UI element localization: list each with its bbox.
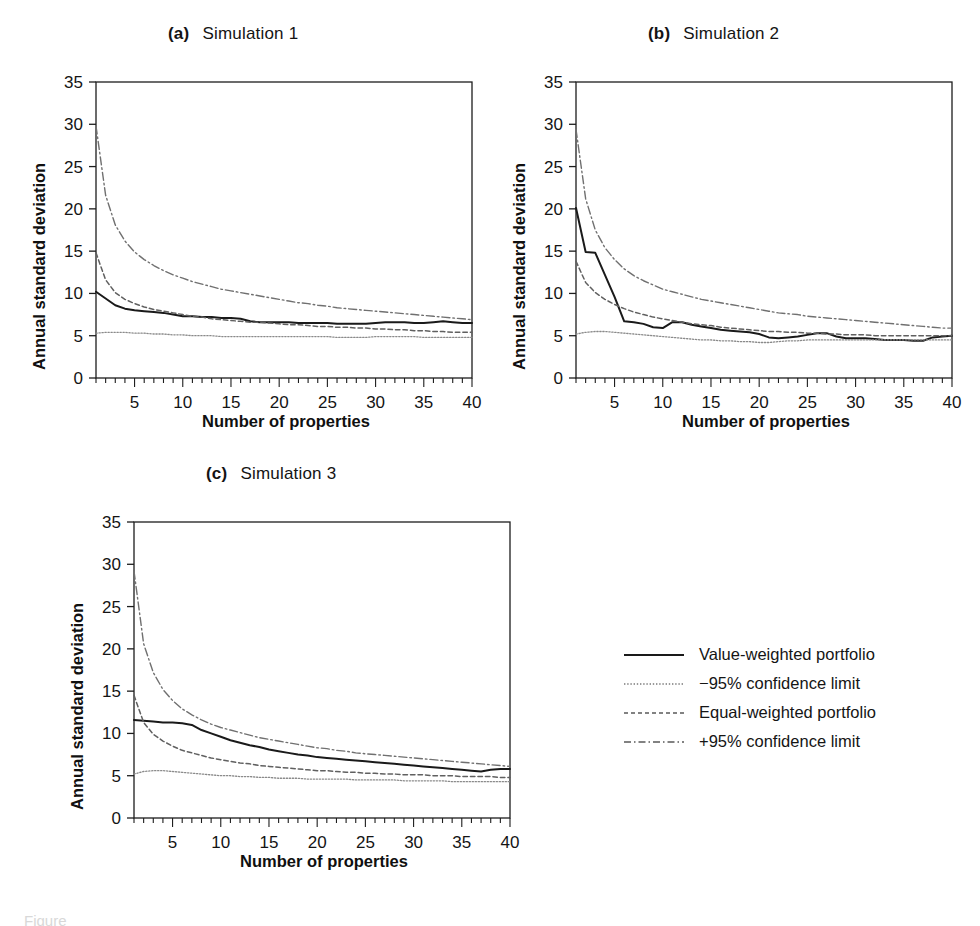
y-tick-label-5: 25 (64, 158, 83, 177)
y-tick-label-0: 0 (112, 809, 121, 828)
y-tick-label-3: 15 (102, 682, 121, 701)
x-tick-label-5: 30 (404, 833, 423, 852)
x-axis-title-b: Number of properties (576, 412, 956, 431)
x-tick-label-1: 10 (653, 393, 672, 412)
series-line-2 (134, 695, 510, 777)
series-line-3 (576, 129, 952, 328)
x-tick-label-0: 5 (168, 833, 177, 852)
y-tick-label-1: 5 (554, 327, 563, 346)
x-tick-label-4: 25 (318, 393, 337, 412)
y-tick-label-1: 5 (112, 767, 121, 786)
legend-label-1: −95% confidence limit (699, 674, 860, 693)
y-tick-label-4: 20 (102, 640, 121, 659)
y-tick-label-6: 30 (544, 115, 563, 134)
x-tick-label-2: 15 (222, 393, 241, 412)
x-tick-label-4: 25 (798, 393, 817, 412)
series-line-2 (576, 261, 952, 335)
y-tick-label-5: 25 (544, 158, 563, 177)
x-tick-label-1: 10 (211, 833, 230, 852)
legend-key-dashed-icon (622, 706, 686, 720)
x-tick-label-7: 40 (501, 833, 520, 852)
x-tick-label-3: 20 (750, 393, 769, 412)
y-tick-label-4: 20 (544, 200, 563, 219)
legend-item-upper-confidence: +95% confidence limit (622, 727, 876, 756)
x-tick-label-6: 35 (452, 833, 471, 852)
series-line-1 (134, 771, 510, 782)
x-tick-label-5: 30 (366, 393, 385, 412)
y-tick-label-3: 15 (544, 242, 563, 261)
legend-key-dotted-icon (622, 677, 686, 691)
x-axis-title-c: Number of properties (134, 852, 514, 871)
legend-key-dashdot-icon (622, 735, 686, 749)
figure-root: (a)Simulation 1 Annual standard deviatio… (0, 0, 980, 926)
legend-item-value-weighted: Value-weighted portfolio (622, 640, 876, 669)
x-tick-label-1: 10 (173, 393, 192, 412)
y-tick-label-0: 0 (554, 369, 563, 388)
series-line-3 (134, 571, 510, 766)
x-axis-title-a: Number of properties (96, 412, 476, 431)
legend-label-0: Value-weighted portfolio (699, 645, 875, 664)
series-line-1 (96, 332, 472, 337)
y-tick-label-3: 15 (64, 242, 83, 261)
x-tick-label-5: 30 (846, 393, 865, 412)
panel-simulation-1: (a)Simulation 1 Annual standard deviatio… (0, 0, 500, 440)
y-tick-label-6: 30 (64, 115, 83, 134)
x-tick-label-7: 40 (943, 393, 962, 412)
y-tick-label-2: 10 (64, 284, 83, 303)
legend-item-lower-confidence: −95% confidence limit (622, 669, 876, 698)
x-tick-label-2: 15 (702, 393, 721, 412)
x-tick-label-0: 5 (610, 393, 619, 412)
y-tick-label-2: 10 (544, 284, 563, 303)
series-line-0 (134, 720, 510, 772)
legend-item-equal-weighted: Equal-weighted portfolio (622, 698, 876, 727)
panel-simulation-2: (b)Simulation 2 Annual standard deviatio… (480, 0, 980, 440)
series-line-0 (96, 292, 472, 324)
legend: Value-weighted portfolio −95% confidence… (622, 640, 876, 756)
x-tick-label-7: 40 (463, 393, 482, 412)
y-tick-label-4: 20 (64, 200, 83, 219)
figure-caption-fragment: Figure (24, 912, 444, 926)
plot-area-simulation-1: 05101520253035510152025303540 (0, 40, 500, 440)
y-tick-label-2: 10 (102, 724, 121, 743)
series-line-3 (96, 126, 472, 320)
y-tick-label-6: 30 (102, 555, 121, 574)
y-tick-label-1: 5 (74, 327, 83, 346)
legend-label-2: Equal-weighted portfolio (699, 703, 876, 722)
legend-label-3: +95% confidence limit (699, 732, 860, 751)
y-tick-label-7: 35 (64, 73, 83, 92)
panel-simulation-3: (c)Simulation 3 Annual standard deviatio… (38, 440, 538, 880)
y-tick-label-0: 0 (74, 369, 83, 388)
x-tick-label-3: 20 (308, 833, 327, 852)
x-tick-label-6: 35 (894, 393, 913, 412)
plot-area-simulation-3: 05101520253035510152025303540 (38, 480, 538, 880)
x-tick-label-6: 35 (414, 393, 433, 412)
x-tick-label-2: 15 (260, 833, 279, 852)
x-tick-label-0: 5 (130, 393, 139, 412)
y-tick-label-5: 25 (102, 598, 121, 617)
plot-area-simulation-2: 05101520253035510152025303540 (480, 40, 980, 440)
y-tick-label-7: 35 (544, 73, 563, 92)
legend-key-solid-icon (622, 648, 686, 662)
y-tick-label-7: 35 (102, 513, 121, 532)
x-tick-label-4: 25 (356, 833, 375, 852)
x-tick-label-3: 20 (270, 393, 289, 412)
